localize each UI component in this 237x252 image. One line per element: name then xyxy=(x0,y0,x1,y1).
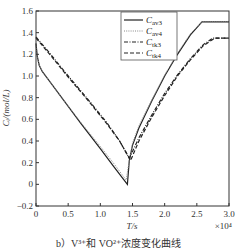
y-axis-title: Cᵢ/(mol/L) xyxy=(1,90,11,127)
y-tick-label: 1.6 xyxy=(22,6,34,16)
x-tick-label: 2.0 xyxy=(159,209,171,219)
y-tick-label: 0.2 xyxy=(22,158,33,168)
y-tick-label: 0 xyxy=(29,179,34,189)
y-tick-label: 0.8 xyxy=(22,93,34,103)
x-axis-title: T/s xyxy=(126,221,138,231)
x-tick-label: 1.5 xyxy=(127,209,139,219)
x-tick-label: 0 xyxy=(34,209,39,219)
x-tick-label: 1.0 xyxy=(95,209,107,219)
concentration-chart: 00.51.01.52.02.53.0 −0.200.20.40.60.81.0… xyxy=(0,0,237,232)
y-tick-label: 1.4 xyxy=(22,28,34,38)
figure-caption: b）V³⁺和 VO²⁺浓度变化曲线 xyxy=(0,235,237,250)
x-axis-ticks: 00.51.01.52.02.53.0 xyxy=(34,203,235,219)
x-axis-multiplier: ×10⁴ xyxy=(215,221,232,231)
y-tick-label: −0.2 xyxy=(17,201,33,211)
y-tick-label: 0.6 xyxy=(22,114,34,124)
y-tick-label: 1.0 xyxy=(22,71,34,81)
x-tick-label: 2.5 xyxy=(191,209,203,219)
legend: Cav3Cav4Ctk3Ctk4 xyxy=(121,12,177,60)
y-tick-label: 1.2 xyxy=(22,49,33,59)
x-tick-label: 0.5 xyxy=(63,209,75,219)
x-tick-label: 3.0 xyxy=(223,209,235,219)
y-tick-label: 0.4 xyxy=(22,136,34,146)
